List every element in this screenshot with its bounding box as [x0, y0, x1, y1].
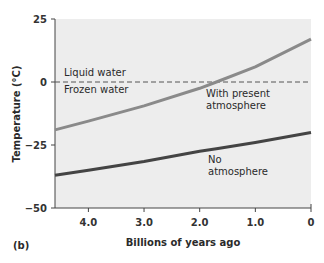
- series-label: With present: [206, 88, 270, 99]
- x-tick-label: 2.0: [191, 217, 209, 228]
- frozen-water-label: Frozen water: [64, 84, 129, 95]
- liquid-water-label: Liquid water: [64, 67, 127, 78]
- y-tick-label: −25: [25, 140, 47, 151]
- panel-label: (b): [13, 240, 29, 251]
- series-label: No: [208, 154, 222, 165]
- plot-area: [55, 19, 311, 208]
- y-axis-label: Temperature (°C): [11, 66, 22, 163]
- x-tick-label: 4.0: [80, 217, 98, 228]
- y-tick-label: 0: [40, 77, 47, 88]
- y-tick-label: 25: [33, 14, 47, 25]
- x-tick-label: 1.0: [246, 217, 264, 228]
- series-label: atmosphere: [206, 100, 266, 111]
- x-tick-label: 0: [308, 217, 315, 228]
- series-label: atmosphere: [208, 166, 268, 177]
- y-tick-label: −50: [25, 203, 47, 214]
- chart: 250−25−504.03.02.01.00Billions of years …: [0, 0, 324, 263]
- x-tick-label: 3.0: [135, 217, 153, 228]
- x-axis-label: Billions of years ago: [126, 237, 241, 248]
